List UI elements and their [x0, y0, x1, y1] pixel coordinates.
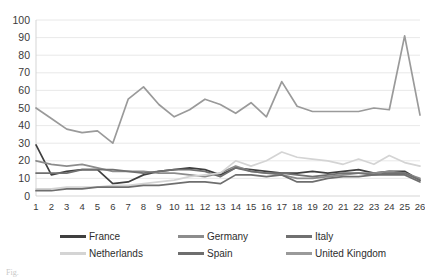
series-line-france [36, 145, 420, 184]
legend-item-spain[interactable]: Spain [178, 245, 286, 262]
figure-caption: Fig. [6, 268, 126, 277]
x-axis-tick-label: 24 [384, 201, 395, 212]
x-axis-tick-label: 11 [185, 201, 195, 212]
legend-swatch-icon [60, 252, 86, 255]
x-axis-tick-label: 17 [276, 201, 287, 212]
y-axis-tick-label: 100 [12, 14, 30, 26]
series-line-united-kingdom [36, 36, 420, 143]
x-axis-tick-label: 26 [415, 201, 425, 212]
chart-legend: FranceGermanyItalyNetherlandsSpainUnited… [60, 228, 400, 264]
legend-row: FranceGermanyItaly [60, 228, 400, 245]
chart-container: 0102030405060708090100 12345678910111213… [0, 0, 425, 277]
legend-label: Netherlands [89, 248, 143, 259]
x-axis-tick-label: 18 [292, 201, 303, 212]
x-axis-tick-label: 23 [369, 201, 380, 212]
y-axis-tick-label: 40 [18, 119, 30, 131]
legend-swatch-icon [286, 235, 312, 238]
y-axis-tick-label: 0 [24, 190, 30, 202]
x-axis-tick-label: 8 [141, 201, 146, 212]
y-axis-tick-label: 90 [18, 31, 30, 43]
x-axis-tick-label: 19 [307, 201, 318, 212]
y-axis-tick-label: 20 [18, 154, 30, 166]
x-axis-tick-label: 14 [230, 201, 241, 212]
x-axis-tick-label: 9 [156, 201, 161, 212]
legend-label: Spain [207, 248, 233, 259]
x-axis-tick-label: 4 [79, 201, 84, 212]
y-axis-tick-label: 30 [18, 137, 30, 149]
legend-label: Italy [315, 231, 333, 242]
y-axis-tick-label: 60 [18, 84, 30, 96]
legend-label: Germany [207, 231, 248, 242]
x-axis-tick-label: 2 [49, 201, 54, 212]
legend-row: NetherlandsSpainUnited Kingdom [60, 245, 400, 262]
legend-item-united-kingdom[interactable]: United Kingdom [286, 245, 400, 262]
legend-swatch-icon [178, 235, 204, 238]
x-axis-tick-label: 3 [64, 201, 69, 212]
x-axis-tick-label: 13 [215, 201, 226, 212]
x-axis-tick-labels: 1234567891011121314151617181920212223242… [33, 201, 425, 212]
x-axis-tick-label: 20 [323, 201, 334, 212]
x-axis-tick-label: 6 [110, 201, 115, 212]
x-axis-tick-label: 25 [399, 201, 410, 212]
y-axis-tick-label: 70 [18, 66, 30, 78]
x-axis-tick-label: 7 [126, 201, 131, 212]
y-axis-tick-label: 80 [18, 49, 30, 61]
legend-item-netherlands[interactable]: Netherlands [60, 245, 178, 262]
x-axis-tick-label: 21 [338, 201, 349, 212]
legend-label: United Kingdom [315, 248, 386, 259]
legend-swatch-icon [178, 252, 204, 255]
y-axis-tick-label: 10 [18, 172, 30, 184]
legend-label: France [89, 231, 120, 242]
line-chart-plot: 0102030405060708090100 12345678910111213… [0, 0, 425, 228]
x-axis-tick-label: 1 [33, 201, 38, 212]
legend-item-france[interactable]: France [60, 228, 178, 245]
x-axis-tick-label: 15 [246, 201, 257, 212]
x-axis-tick-label: 16 [261, 201, 272, 212]
y-axis-tick-labels: 0102030405060708090100 [12, 14, 30, 202]
legend-swatch-icon [286, 252, 312, 255]
x-axis-tick-label: 22 [353, 201, 364, 212]
x-axis-tick-label: 10 [169, 201, 180, 212]
x-axis-tick-label: 5 [95, 201, 100, 212]
legend-swatch-icon [60, 235, 86, 238]
series-lines [36, 36, 420, 191]
x-axis-tick-label: 12 [200, 201, 211, 212]
legend-item-italy[interactable]: Italy [286, 228, 400, 245]
y-axis-tick-label: 50 [18, 102, 30, 114]
series-line-spain [36, 175, 420, 191]
legend-item-germany[interactable]: Germany [178, 228, 286, 245]
